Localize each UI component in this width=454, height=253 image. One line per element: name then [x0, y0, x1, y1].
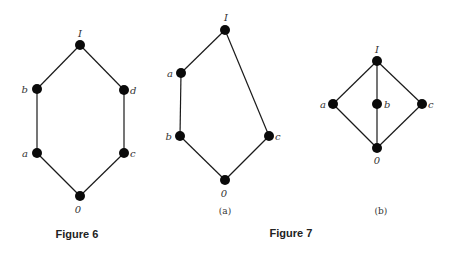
fig7b-label-c: c [428, 99, 434, 110]
fig6-node-0 [75, 191, 85, 201]
fig6-node-c [119, 148, 129, 158]
fig6-edge-I-b [37, 45, 80, 89]
fig7a-node-I [220, 25, 230, 35]
figure-7-caption: Figure 7 [270, 227, 313, 239]
fig7a-node-b [175, 131, 185, 141]
fig7a-node-c [264, 131, 274, 141]
fig7b-node-c [417, 99, 427, 109]
fig7b-node-b [372, 99, 382, 109]
fig7a-edge-a-b [180, 73, 181, 136]
figure-7a-pentagon-lattice: Iabc0 [166, 12, 281, 199]
fig7b-edge-I-c [377, 61, 422, 104]
fig6-label-I: I [77, 28, 83, 39]
fig7a-node-0 [220, 175, 230, 185]
fig7a-label-a: a [167, 68, 173, 79]
fig6-label-c: c [130, 148, 136, 159]
figure-7a-sublabel: (a) [219, 206, 231, 216]
fig7a-label-c: c [275, 131, 281, 142]
fig7b-node-a [328, 99, 338, 109]
fig7b-label-0: 0 [374, 155, 381, 166]
fig6-label-b: b [22, 84, 28, 95]
fig7a-edge-I-a [181, 30, 225, 73]
fig7a-edge-I-c [225, 30, 269, 136]
fig7a-node-a [176, 68, 186, 78]
fig7a-edge-b-0 [180, 136, 225, 180]
fig6-label-a: a [22, 148, 28, 159]
fig6-edge-c-0 [80, 153, 124, 196]
fig7b-node-I [372, 56, 382, 66]
fig6-node-d [119, 85, 129, 95]
fig7b-edge-c-0 [377, 104, 422, 148]
fig7b-label-b: b [384, 99, 390, 110]
lattice-diagrams: Ibdac0 Iabc0 Iabc0 (a) (b) Figure 6 Figu… [0, 0, 454, 253]
fig6-edge-I-d [80, 45, 124, 90]
fig6-node-a [32, 148, 42, 158]
figure-7b-diamond-lattice: Iabc0 [320, 44, 434, 166]
fig7b-node-0 [372, 143, 382, 153]
fig7a-edge-c-0 [225, 136, 269, 180]
fig6-edge-a-0 [37, 153, 80, 196]
fig6-node-I [75, 40, 85, 50]
fig6-node-b [32, 84, 42, 94]
fig7b-edge-I-a [333, 61, 377, 104]
figure-7b-sublabel: (b) [375, 206, 388, 216]
figure-6-hexagon-lattice: Ibdac0 [22, 28, 137, 215]
fig7b-label-a: a [320, 99, 326, 110]
figure-6-caption: Figure 6 [56, 228, 99, 240]
fig7b-edge-a-0 [333, 104, 377, 148]
fig7b-label-I: I [374, 44, 380, 55]
fig6-label-0: 0 [75, 204, 82, 215]
fig7a-label-I: I [223, 12, 229, 23]
fig7a-label-b: b [166, 131, 172, 142]
fig6-label-d: d [130, 85, 136, 96]
fig7a-label-0: 0 [221, 188, 228, 199]
